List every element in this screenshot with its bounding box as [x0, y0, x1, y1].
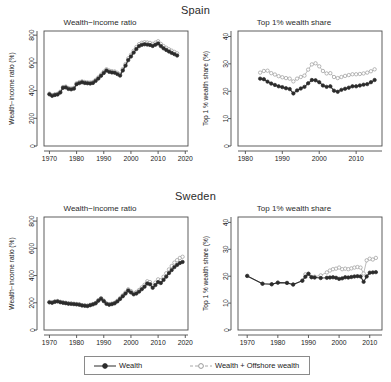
- country-title-spain: Spain: [0, 4, 391, 16]
- svg-text:Top 1 % wealth share (%): Top 1 % wealth share (%): [202, 51, 210, 126]
- svg-text:0: 0: [29, 144, 36, 148]
- svg-text:20: 20: [223, 272, 230, 280]
- svg-text:1990: 1990: [275, 155, 290, 162]
- plot-spain-wealth-income-ratio: 0200400600800197019801990200020102020Wea…: [6, 18, 194, 168]
- svg-text:2010: 2010: [151, 155, 166, 162]
- svg-text:0: 0: [223, 144, 230, 148]
- legend-label-wealth: Wealth: [119, 361, 142, 370]
- svg-text:Top 1 % wealth share (%): Top 1 % wealth share (%): [202, 236, 210, 311]
- svg-text:1990: 1990: [96, 155, 111, 162]
- svg-text:2010: 2010: [151, 339, 166, 346]
- svg-text:1980: 1980: [270, 339, 285, 346]
- svg-text:1980: 1980: [69, 155, 84, 162]
- svg-text:20: 20: [223, 87, 230, 95]
- svg-text:Wealth−income ratio (%): Wealth−income ratio (%): [8, 52, 16, 124]
- plot-spain-top1-wealth-share: 0102030401980199020002010Top 1 % wealth …: [200, 18, 388, 168]
- svg-text:1970: 1970: [240, 339, 255, 346]
- svg-text:1980: 1980: [69, 339, 84, 346]
- panel-spain-top1-wealth-share: Top 1% wealth share 01020304019801990200…: [200, 18, 388, 168]
- svg-text:30: 30: [223, 60, 230, 68]
- svg-text:600: 600: [29, 242, 36, 254]
- plot-sweden-wealth-income-ratio: 0200400600800197019801990200020102020Wea…: [6, 204, 194, 352]
- svg-text:2000: 2000: [123, 155, 138, 162]
- svg-text:2000: 2000: [123, 339, 138, 346]
- svg-text:1970: 1970: [42, 339, 57, 346]
- legend-item-wealth: Wealth: [94, 357, 142, 374]
- svg-text:0: 0: [29, 328, 36, 332]
- svg-text:2020: 2020: [178, 155, 193, 162]
- legend-marker-offshore: [190, 361, 212, 371]
- svg-text:1980: 1980: [238, 155, 253, 162]
- svg-text:10: 10: [223, 299, 230, 307]
- panel-sweden-top1-wealth-share: Top 1% wealth share 01020304019701980199…: [200, 204, 388, 352]
- panel-sweden-wealth-income-ratio: Wealth−income ratio 02004006008001970198…: [6, 204, 194, 352]
- svg-text:600: 600: [29, 57, 36, 69]
- svg-text:2000: 2000: [312, 155, 327, 162]
- legend-marker-wealth: [94, 361, 116, 371]
- svg-text:800: 800: [29, 29, 36, 41]
- svg-text:400: 400: [29, 85, 36, 97]
- svg-text:40: 40: [223, 218, 230, 226]
- svg-text:400: 400: [29, 270, 36, 282]
- svg-text:40: 40: [223, 32, 230, 40]
- svg-text:Wealth−income ratio (%): Wealth−income ratio (%): [8, 237, 16, 309]
- panel-spain-wealth-income-ratio: Wealth−income ratio 02004006008001970198…: [6, 18, 194, 168]
- country-title-sweden: Sweden: [0, 190, 391, 202]
- legend-item-offshore: Wealth + Offshore wealth: [190, 357, 299, 374]
- svg-text:2010: 2010: [362, 339, 377, 346]
- chart-legend: Wealth Wealth + Offshore wealth: [84, 356, 310, 375]
- svg-text:2000: 2000: [332, 339, 347, 346]
- svg-text:800: 800: [29, 215, 36, 227]
- svg-text:200: 200: [29, 112, 36, 124]
- svg-text:2020: 2020: [178, 339, 193, 346]
- svg-text:1970: 1970: [42, 155, 57, 162]
- svg-text:30: 30: [223, 245, 230, 253]
- svg-text:200: 200: [29, 297, 36, 309]
- svg-text:2010: 2010: [349, 155, 364, 162]
- svg-text:1990: 1990: [96, 339, 111, 346]
- legend-label-offshore: Wealth + Offshore wealth: [215, 361, 299, 370]
- svg-text:10: 10: [223, 115, 230, 123]
- wealth-figure: Spain Sweden Wealth−income ratio 0200400…: [0, 0, 391, 382]
- svg-text:1990: 1990: [301, 339, 316, 346]
- plot-sweden-top1-wealth-share: 01020304019701980199020002010Top 1 % wea…: [200, 204, 388, 352]
- svg-text:0: 0: [223, 328, 230, 332]
